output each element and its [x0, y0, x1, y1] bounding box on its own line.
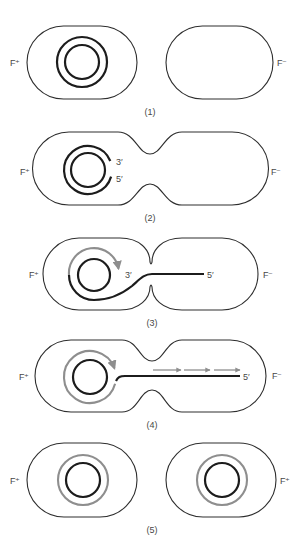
panel-4: 5′ F⁺ F⁻ (4) [19, 340, 283, 430]
panel-caption: (2) [145, 213, 156, 223]
five-prime-label: 5′ [116, 174, 123, 184]
mating-pair-outline [32, 132, 268, 205]
plasmid-inner-strand [78, 259, 110, 291]
plasmid-inner-strand [73, 360, 107, 394]
panel-caption: (5) [147, 525, 158, 535]
panel-1: F⁺ F⁻ (1) [10, 26, 288, 117]
f-minus-label: F⁻ [277, 58, 288, 68]
new-strand-synthesis-arrow [69, 248, 119, 275]
five-prime-label: 5′ [243, 372, 250, 382]
f-plus-label: F⁺ [20, 167, 31, 177]
panel-caption: (1) [145, 107, 156, 117]
transferred-strand [116, 376, 240, 381]
plasmid-inner-strand [71, 153, 105, 187]
plasmid-inner-strand [65, 45, 99, 79]
panel-caption: (4) [147, 420, 158, 430]
f-plus-label: F⁺ [10, 58, 21, 68]
plasmid-old-strand [66, 463, 100, 497]
f-minus-label: F⁻ [271, 167, 282, 177]
panel-5: F⁺ F⁺ (5) [10, 443, 291, 535]
f-plasmid-conjugation-diagram: F⁺ F⁻ (1) 3′ 5′ F⁺ F⁻ (2) 3′ 5′ F⁺ F⁻ (3… [0, 0, 302, 545]
five-prime-label: 5′ [207, 270, 214, 280]
f-plus-label: F⁺ [29, 270, 40, 280]
f-minus-label: F⁻ [272, 371, 283, 381]
panel-3: 3′ 5′ F⁺ F⁻ (3) [29, 238, 274, 328]
f-plus-label-left: F⁺ [10, 476, 21, 486]
transferred-strand [69, 274, 204, 300]
three-prime-label: 3′ [125, 270, 132, 280]
panel-2: 3′ 5′ F⁺ F⁻ (2) [20, 132, 282, 223]
f-minus-cell [166, 26, 273, 99]
f-plus-label: F⁺ [19, 372, 30, 382]
panel-caption: (3) [147, 318, 158, 328]
f-minus-label: F⁻ [263, 270, 274, 280]
plasmid-transferred-strand [205, 463, 239, 497]
f-plus-label-right: F⁺ [280, 476, 291, 486]
three-prime-label: 3′ [116, 157, 123, 167]
